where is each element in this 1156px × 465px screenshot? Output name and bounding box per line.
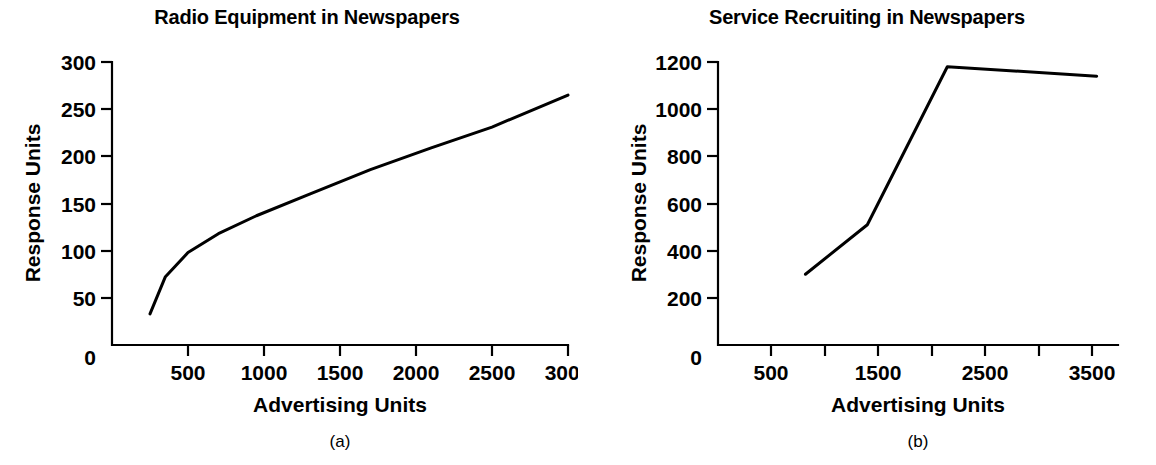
axes-b — [718, 62, 1118, 345]
panel-caption-a: (a) — [330, 432, 351, 451]
origin-label-b: 0 — [690, 346, 702, 369]
y-tick-label-a-50: 50 — [73, 287, 96, 310]
x-axis-title-b: Advertising Units — [831, 393, 1005, 416]
chart-panel-a: Radio Equipment in Newspapers 300 250 20… — [0, 0, 578, 465]
chart-panel-b: Service Recruiting in Newspapers 1200 10… — [578, 0, 1156, 465]
data-series-line-b — [805, 67, 1096, 275]
y-tick-label-a-100: 100 — [61, 240, 96, 263]
x-tick-label-a-1500: 1500 — [317, 361, 364, 384]
y-tick-label-b-800: 800 — [667, 145, 702, 168]
two-panel-line-chart-figure: Radio Equipment in Newspapers 300 250 20… — [0, 0, 1156, 465]
x-tick-label-a-1000: 1000 — [241, 361, 288, 384]
y-tick-label-b-1000: 1000 — [655, 98, 702, 121]
y-tick-label-b-200: 200 — [667, 287, 702, 310]
data-series-line-a — [150, 95, 568, 314]
x-axis-title-a: Advertising Units — [253, 393, 427, 416]
y-tick-label-a-300: 300 — [61, 51, 96, 74]
x-tick-label-a-500: 500 — [170, 361, 205, 384]
x-tick-label-b-3500: 3500 — [1069, 361, 1116, 384]
y-tick-label-a-150: 150 — [61, 193, 96, 216]
y-tick-label-b-400: 400 — [667, 240, 702, 263]
x-tick-label-a-3000: 3000 — [545, 361, 578, 384]
y-tick-label-b-1200: 1200 — [655, 51, 702, 74]
plot-area-b: 1200 1000 800 600 400 200 0 500 1500 250… — [578, 0, 1156, 465]
y-axis-title-a: Response Units — [21, 124, 44, 283]
x-tick-label-b-500: 500 — [753, 361, 788, 384]
x-tick-label-a-2500: 2500 — [469, 361, 516, 384]
x-tick-label-a-2000: 2000 — [393, 361, 440, 384]
x-tick-label-b-2500: 2500 — [962, 361, 1009, 384]
y-tick-label-b-600: 600 — [667, 193, 702, 216]
axes-a — [112, 62, 568, 345]
y-axis-title-b: Response Units — [627, 124, 650, 283]
y-tick-label-a-200: 200 — [61, 145, 96, 168]
plot-area-a: 300 250 200 150 100 50 0 500 1000 1500 2… — [0, 0, 578, 465]
y-tick-label-a-250: 250 — [61, 98, 96, 121]
x-tick-label-b-1500: 1500 — [855, 361, 902, 384]
panel-caption-b: (b) — [908, 432, 929, 451]
origin-label-a: 0 — [84, 346, 96, 369]
